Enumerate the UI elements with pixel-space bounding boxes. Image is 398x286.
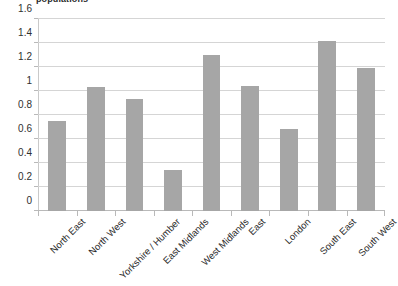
y-tick-label: 1.4 — [18, 27, 32, 38]
x-axis-label: East — [246, 216, 267, 237]
x-label-slot: South East — [308, 214, 347, 286]
x-label-slot: West Midlands — [192, 214, 231, 286]
bar-slot — [154, 19, 193, 211]
bar-slot — [192, 19, 231, 211]
chart-title: populations — [36, 0, 88, 4]
bar-slot — [77, 19, 116, 211]
bar[interactable] — [164, 170, 182, 211]
plot-area: 00.20.40.60.811.21.41.6 — [38, 19, 385, 211]
y-tick-label: 1.6 — [18, 3, 32, 14]
x-axis-label: South West — [356, 216, 398, 258]
y-tick-label: 0.8 — [18, 99, 32, 110]
bar-slot — [115, 19, 154, 211]
x-label-slot: North West — [77, 214, 116, 286]
y-tick-label: 0.4 — [18, 147, 32, 158]
x-label-slot: East — [231, 214, 270, 286]
bar-slot — [347, 19, 386, 211]
bar[interactable] — [87, 87, 105, 211]
x-label-slot: East Midlands — [154, 214, 193, 286]
bar[interactable] — [203, 55, 221, 211]
x-label-slot: London — [269, 214, 308, 286]
bar[interactable] — [318, 41, 336, 211]
bar-slot — [38, 19, 77, 211]
x-label-slot: South West — [347, 214, 386, 286]
y-tick-label: 1 — [26, 75, 32, 86]
y-tick-label: 0.6 — [18, 123, 32, 134]
bar-slot — [231, 19, 270, 211]
y-tick-label: 1.2 — [18, 51, 32, 62]
bar[interactable] — [357, 68, 375, 211]
bar-slot — [308, 19, 347, 211]
x-axis-labels: North EastNorth WestYorkshire / HumberEa… — [38, 214, 385, 286]
bar[interactable] — [280, 129, 298, 211]
bar[interactable] — [48, 121, 66, 211]
x-label-slot: North East — [38, 214, 77, 286]
y-tick-label: 0.2 — [18, 171, 32, 182]
bar-slot — [269, 19, 308, 211]
x-label-slot: Yorkshire / Humber — [115, 214, 154, 286]
bar[interactable] — [241, 86, 259, 211]
bar[interactable] — [126, 99, 144, 211]
y-tick-label: 0 — [26, 195, 32, 206]
bar-series — [38, 19, 385, 211]
